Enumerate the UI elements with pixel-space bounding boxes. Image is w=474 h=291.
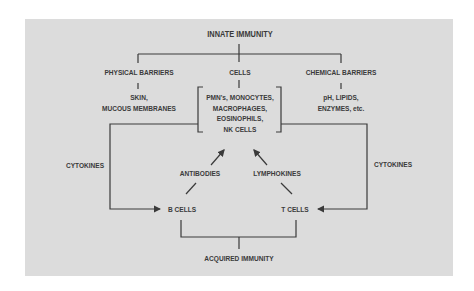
cells-label: CELLS — [229, 68, 251, 79]
lymphokines-label: LYMPHOKINES — [253, 169, 301, 180]
chemical-barriers-label: CHEMICAL BARRIERS — [306, 68, 377, 79]
cytokines-left-label: CYTOKINES — [66, 161, 104, 172]
chemical-barriers-detail: pH, LIPIDS, ENZYMES, etc. — [318, 93, 365, 114]
cytokines-right-label: CYTOKINES — [374, 160, 412, 171]
innate-immunity-label: INNATE IMMUNITY — [207, 29, 272, 40]
physical-barriers-label: PHYSICAL BARRIERS — [104, 68, 173, 79]
t-cells-label: T CELLS — [281, 205, 308, 216]
antibodies-label: ANTIBODIES — [180, 169, 220, 180]
acquired-immunity-label: ACQUIRED IMMUNITY — [204, 254, 273, 265]
connector-lines — [0, 0, 474, 291]
b-cells-label: B CELLS — [168, 205, 196, 216]
cells-detail: PMN's, MONOCYTES, MACROPHAGES, EOSINOPHI… — [206, 93, 274, 135]
physical-barriers-detail: SKIN, MUCOUS MEMBRANES — [102, 93, 176, 114]
